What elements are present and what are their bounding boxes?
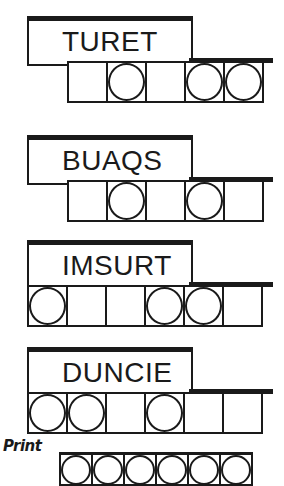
letter-cell[interactable] — [66, 285, 107, 327]
scrambled-word-box: TURET — [27, 16, 193, 66]
circle-marker-icon — [93, 455, 123, 485]
answer-cells — [27, 392, 263, 434]
scrambled-word-box: DUNCIE — [27, 347, 193, 397]
final-answer-cell[interactable] — [219, 452, 253, 486]
answer-cells — [67, 180, 264, 222]
circle-marker-icon — [186, 182, 223, 220]
letter-cell[interactable] — [67, 180, 108, 222]
print-label: Print — [3, 437, 41, 455]
circled-letter-cell[interactable] — [184, 61, 225, 103]
scrambled-word-box: BUAQS — [27, 135, 193, 185]
answer-cells — [27, 285, 263, 327]
final-answer-cell[interactable] — [59, 452, 93, 486]
circle-marker-icon — [189, 455, 219, 485]
scrambled-word: BUAQS — [62, 144, 163, 178]
circled-letter-cell[interactable] — [184, 180, 225, 222]
circle-marker-icon — [108, 182, 145, 220]
letter-cell[interactable] — [222, 285, 263, 327]
circled-letter-cell[interactable] — [223, 61, 264, 103]
circled-letter-cell[interactable] — [27, 285, 68, 327]
circled-letter-cell[interactable] — [144, 392, 185, 434]
answer-row — [59, 452, 253, 486]
scrambled-word: TURET — [62, 25, 158, 59]
letter-cell[interactable] — [105, 392, 146, 434]
letter-cell[interactable] — [67, 61, 108, 103]
final-answer-cell[interactable] — [155, 452, 189, 486]
circle-marker-icon — [29, 394, 66, 432]
letter-cell[interactable] — [145, 61, 186, 103]
letter-cell[interactable] — [223, 180, 264, 222]
circled-letter-cell[interactable] — [144, 285, 185, 327]
circle-marker-icon — [125, 455, 155, 485]
scrambled-word: IMSURT — [62, 249, 172, 283]
circled-letter-cell[interactable] — [106, 61, 147, 103]
scrambled-word-box: IMSURT — [27, 240, 193, 290]
circle-marker-icon — [157, 455, 187, 485]
letter-cell[interactable] — [145, 180, 186, 222]
circled-letter-cell[interactable] — [66, 392, 107, 434]
answer-cells — [67, 61, 264, 103]
letter-cell[interactable] — [105, 285, 146, 327]
circle-marker-icon — [146, 287, 183, 325]
scrambled-word: DUNCIE — [62, 356, 172, 390]
circled-letter-cell[interactable] — [183, 285, 224, 327]
letter-cell[interactable] — [222, 392, 263, 434]
circle-marker-icon — [186, 63, 223, 101]
final-answer-cell[interactable] — [91, 452, 125, 486]
circled-letter-cell[interactable] — [106, 180, 147, 222]
circle-marker-icon — [225, 63, 262, 101]
circle-marker-icon — [29, 287, 66, 325]
final-answer-cell[interactable] — [123, 452, 157, 486]
circle-marker-icon — [108, 63, 145, 101]
circle-marker-icon — [146, 394, 183, 432]
final-answer-cell[interactable] — [187, 452, 221, 486]
letter-cell[interactable] — [183, 392, 224, 434]
circle-marker-icon — [61, 455, 91, 485]
circled-letter-cell[interactable] — [27, 392, 68, 434]
circle-marker-icon — [221, 455, 251, 485]
circle-marker-icon — [185, 287, 222, 325]
circle-marker-icon — [68, 394, 105, 432]
